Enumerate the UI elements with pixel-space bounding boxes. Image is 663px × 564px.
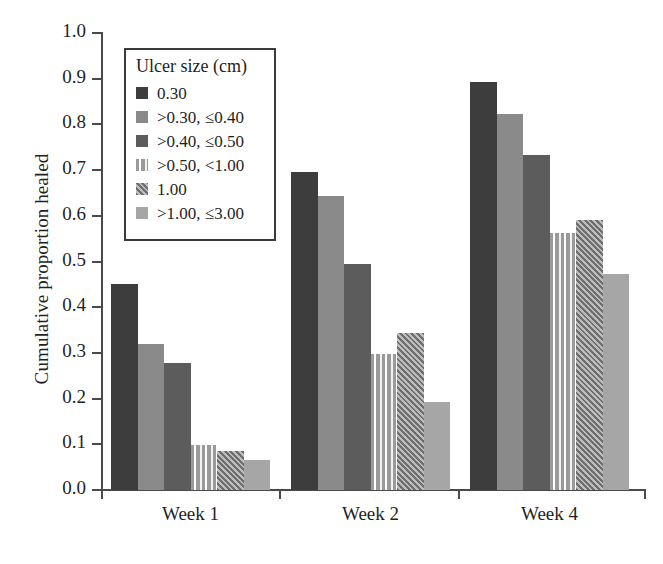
bar	[217, 451, 244, 490]
legend-swatch-icon	[136, 159, 148, 171]
legend-item-label: 1.00	[157, 181, 187, 198]
bar	[164, 363, 191, 490]
bars-layer	[0, 33, 663, 490]
x-axis-tick	[644, 489, 646, 499]
legend-item[interactable]: 0.30	[136, 81, 266, 105]
bar	[523, 155, 550, 490]
x-axis-group-label: Week 4	[460, 503, 640, 525]
bar	[291, 172, 318, 490]
legend-item[interactable]: >1.00, ≤3.00	[136, 201, 266, 225]
legend-swatch-icon	[136, 135, 148, 147]
legend-item-label: >1.00, ≤3.00	[157, 205, 244, 222]
legend-swatch-icon	[136, 111, 148, 123]
bar	[576, 220, 603, 490]
bar	[424, 402, 451, 490]
bar	[397, 333, 424, 490]
bar	[550, 233, 577, 490]
bar	[244, 460, 271, 490]
legend-swatch-icon	[136, 87, 148, 99]
legend-swatch-icon	[136, 207, 148, 219]
legend-item[interactable]: 1.00	[136, 177, 266, 201]
bar	[344, 264, 371, 490]
legend-item[interactable]: >0.40, ≤0.50	[136, 129, 266, 153]
x-axis-group-label: Week 1	[101, 503, 281, 525]
legend-swatch-icon	[136, 183, 148, 195]
x-axis-tick	[101, 489, 103, 499]
legend-items: 0.30>0.30, ≤0.40>0.40, ≤0.50>0.50, <1.00…	[136, 81, 266, 225]
legend-item-label: 0.30	[157, 85, 187, 102]
bar	[138, 344, 165, 490]
x-axis-group-label: Week 2	[281, 503, 461, 525]
legend-item-label: >0.50, <1.00	[157, 157, 244, 174]
legend-title: Ulcer size (cm)	[136, 56, 266, 77]
legend-item[interactable]: >0.30, ≤0.40	[136, 105, 266, 129]
bar	[371, 354, 398, 490]
x-axis-tick	[279, 489, 281, 499]
legend-item-label: >0.40, ≤0.50	[157, 133, 244, 150]
bar	[470, 82, 497, 490]
bar	[318, 196, 345, 490]
bar	[497, 114, 524, 490]
x-axis-tick	[458, 489, 460, 499]
bar	[603, 274, 630, 490]
legend-item[interactable]: >0.50, <1.00	[136, 153, 266, 177]
bar	[111, 284, 138, 490]
bar	[191, 445, 218, 490]
legend-item-label: >0.30, ≤0.40	[157, 109, 244, 126]
bar-chart: Cumulative proportion healed 1.00.90.80.…	[0, 0, 663, 564]
legend: Ulcer size (cm) 0.30>0.30, ≤0.40>0.40, ≤…	[124, 48, 276, 241]
